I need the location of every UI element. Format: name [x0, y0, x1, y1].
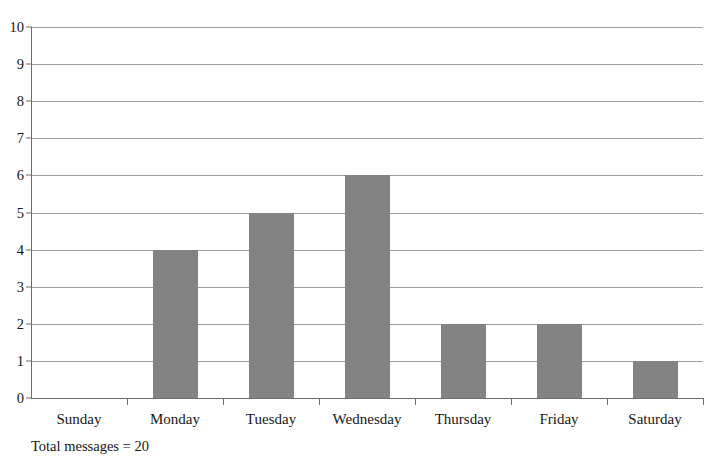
bars-group: [31, 27, 703, 398]
y-tick-label-8: 8: [0, 94, 24, 109]
x-axis-label-wednesday: Wednesday: [319, 407, 415, 431]
y-tick-mark-10: [26, 27, 32, 28]
x-axis-label-sunday: Sunday: [31, 407, 127, 431]
x-axis-label-tuesday: Tuesday: [223, 407, 319, 431]
y-tick-label-10: 10: [0, 20, 24, 35]
bar-thursday: [441, 324, 486, 398]
y-tick-label-5: 5: [0, 205, 24, 220]
y-tick-mark-1: [26, 360, 32, 361]
y-tick-mark-3: [26, 286, 32, 287]
bar-tuesday: [249, 213, 294, 399]
x-tick-mark-1: [127, 398, 128, 405]
y-tick-mark-4: [26, 249, 32, 250]
bar-chart-figure: 012345678910 SundayMondayTuesdayWednesda…: [0, 0, 716, 475]
bar-friday: [537, 324, 582, 398]
x-tick-mark-2: [223, 398, 224, 405]
x-axis-label-saturday: Saturday: [607, 407, 703, 431]
y-tick-label-2: 2: [0, 317, 24, 332]
y-tick-label-0: 0: [0, 391, 24, 406]
y-tick-mark-8: [26, 101, 32, 102]
y-tick-label-4: 4: [0, 242, 24, 257]
x-axis-label-monday: Monday: [127, 407, 223, 431]
x-tick-mark-end: [703, 398, 704, 405]
total-messages-caption: Total messages = 20: [31, 438, 149, 455]
y-axis-tick-labels: 012345678910: [0, 0, 24, 475]
y-tick-mark-2: [26, 323, 32, 324]
y-tick-mark-7: [26, 138, 32, 139]
y-tick-label-6: 6: [0, 168, 24, 183]
x-tick-mark-6: [607, 398, 608, 405]
y-tick-label-9: 9: [0, 57, 24, 72]
x-axis-label-friday: Friday: [511, 407, 607, 431]
y-tick-mark-6: [26, 175, 32, 176]
y-tick-label-1: 1: [0, 354, 24, 369]
y-tick-mark-5: [26, 212, 32, 213]
x-tick-mark-3: [319, 398, 320, 405]
x-axis-tick-marks: [31, 398, 703, 406]
x-axis-labels: SundayMondayTuesdayWednesdayThursdayFrid…: [31, 407, 703, 433]
y-tick-label-7: 7: [0, 131, 24, 146]
y-tick-label-3: 3: [0, 279, 24, 294]
x-tick-mark-4: [415, 398, 416, 405]
x-axis-label-thursday: Thursday: [415, 407, 511, 431]
plot-area: [31, 27, 703, 398]
bar-saturday: [633, 361, 678, 398]
bar-wednesday: [345, 175, 390, 398]
x-tick-mark-5: [511, 398, 512, 405]
bar-monday: [153, 250, 198, 398]
y-tick-mark-9: [26, 64, 32, 65]
